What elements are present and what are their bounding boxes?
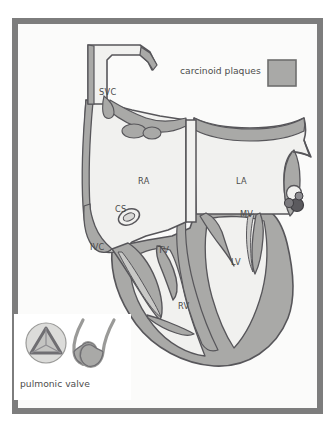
label-ra: RA [138,176,150,186]
pulmonic-valve-inset: pulmonic valve [14,314,131,400]
label-ivc: IVC [90,242,105,252]
inset-caption: pulmonic valve [20,378,90,389]
label-mv: MV [240,209,253,219]
label-rv: RV [178,301,190,311]
ra-roof-nodule-2 [143,127,161,139]
appendage-nodule-dark-2 [285,199,294,208]
label-svc: SVC [99,87,116,97]
label-lv: LV [231,257,241,267]
legend-label: carcinoid plaques [180,65,261,76]
label-la: LA [236,176,247,186]
label-cs: CS [115,204,127,214]
la-appendage-nodules [285,186,304,212]
label-tv: TV [157,245,169,255]
ra-roof-nodule-1 [122,124,146,138]
heart-diagram-canvas: carcinoid plaques SVC RA CS IVC TV RV LA… [0,0,335,431]
carcinoid-heart-diagram: carcinoid plaques SVC RA CS IVC TV RV LA… [0,0,335,431]
legend-swatch [268,60,296,86]
interatrial-septum [186,120,196,222]
appendage-nodule-dark-3 [295,192,303,200]
svc-wall-plaque-left [88,45,94,104]
